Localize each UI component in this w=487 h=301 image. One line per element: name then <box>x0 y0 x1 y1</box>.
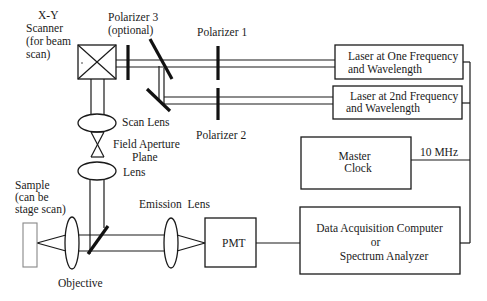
dichroic-mirror <box>88 226 108 254</box>
label-line: Field Aperture <box>113 138 180 151</box>
sample-slide <box>23 223 37 267</box>
label-line: (for beam <box>26 35 71 48</box>
label-line: stage scan) <box>15 203 66 216</box>
label-line: or <box>371 236 381 248</box>
label-line: X-Y <box>38 9 59 21</box>
label-line: Clock <box>344 162 372 174</box>
beam-top <box>116 60 335 67</box>
field-aperture-label: Field Aperture Plane <box>113 138 183 163</box>
polarizer1-label: Polarizer 1 <box>197 26 247 38</box>
scan-lens-label: Scan Lens <box>122 116 170 128</box>
label-line: (optional) <box>108 24 154 37</box>
optical-diagram: X-Y Scanner (for beam scan) Polarizer 3 … <box>0 0 487 301</box>
label-line: Polarizer 3 <box>108 11 158 23</box>
polarizer2-label: Polarizer 2 <box>196 129 246 141</box>
label-line: Plane <box>132 151 158 163</box>
relay-lens <box>78 162 116 180</box>
label-line: Laser at One Frequency <box>348 50 458 63</box>
master-clock-label: Master Clock <box>339 150 374 174</box>
beam-scanner-down <box>91 79 104 115</box>
clock-frequency-label: 10 MHz <box>420 146 458 158</box>
emission-lens-label: Emission Lens <box>139 198 210 210</box>
label-line: Scanner <box>26 22 63 34</box>
label-line: Master <box>339 150 371 162</box>
sample-label: Sample (can be stage scan) <box>15 179 66 216</box>
combiner-mirror <box>150 39 172 79</box>
emission-lens <box>164 218 178 268</box>
objective-label: Objective <box>58 277 103 290</box>
sample-focus-cone <box>37 235 66 251</box>
label-line: Data Acquisition Computer <box>316 222 443 235</box>
xy-scanner-label: X-Y Scanner (for beam scan) <box>26 9 74 61</box>
field-aperture-focus <box>91 132 104 157</box>
label-line: scan) <box>26 48 50 61</box>
scanner-dot <box>81 62 83 64</box>
label-line: Spectrum Analyzer <box>340 250 429 263</box>
xy-scanner <box>78 45 116 79</box>
beam-lower <box>164 97 333 104</box>
scan-lens <box>78 114 116 132</box>
relay-lens-label: Lens <box>123 166 146 178</box>
polarizer3-label: Polarizer 3 (optional) <box>108 11 161 37</box>
objective-lens <box>65 217 79 269</box>
emission-focus-cone <box>177 235 205 251</box>
label-line: and Wavelength <box>348 63 422 76</box>
label-line: and Wavelength <box>346 102 420 115</box>
pmt-label: PMT <box>222 237 246 249</box>
